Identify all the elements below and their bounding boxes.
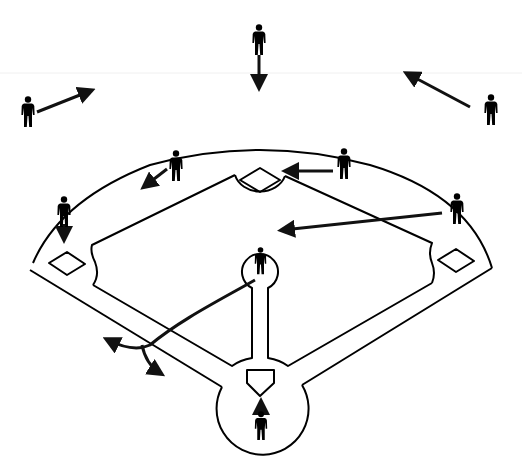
arrow-shortstop: [145, 169, 167, 186]
player-left-fielder-icon: [21, 96, 34, 127]
player-shortstop-icon: [169, 150, 182, 181]
first-base: [438, 249, 474, 272]
player-center-fielder-icon: [252, 24, 265, 55]
right-foul-line-outer: [302, 268, 492, 385]
first-base-cutout: [285, 176, 434, 283]
arrow-first-baseman: [283, 213, 442, 230]
third-base: [49, 252, 85, 275]
player-catcher-icon: [255, 411, 267, 440]
baseball-field-diagram: [0, 0, 522, 465]
ball-path: [108, 280, 255, 348]
arrow-left-fielder: [37, 91, 90, 112]
player-pitcher-icon: [255, 247, 267, 274]
arrow-right-fielder: [408, 74, 470, 107]
player-right-fielder-icon: [484, 94, 497, 125]
home-plate: [247, 370, 274, 396]
player-second-baseman-icon: [337, 148, 350, 179]
ball-path-branch: [142, 345, 160, 373]
left-foul-line-outer: [30, 270, 222, 387]
third-base-cutout: [91, 175, 235, 285]
